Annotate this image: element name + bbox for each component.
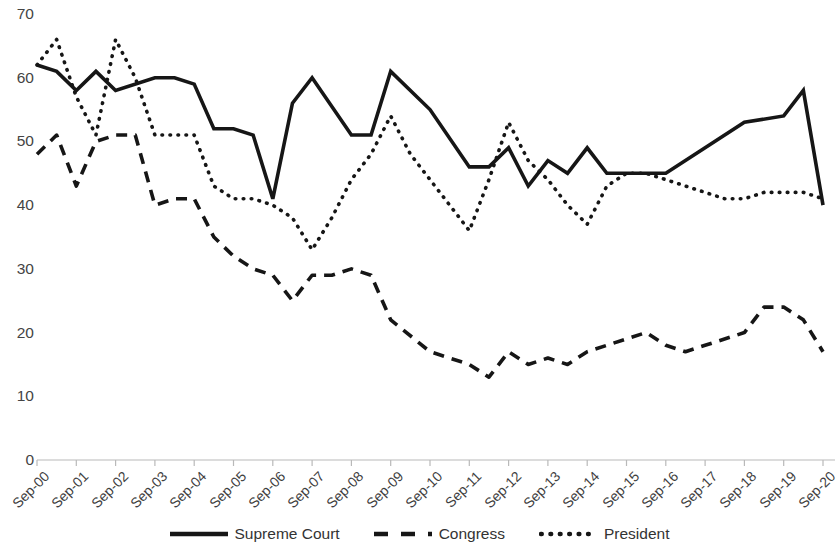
approval-ratings-line-chart: 010203040506070 Sep-00Sep-01Sep-02Sep-03… [0, 0, 839, 547]
series-line-congress [37, 135, 823, 377]
series-line-president [37, 39, 823, 249]
y-axis-tick-label: 70 [0, 6, 34, 22]
legend-swatch-solid-icon [170, 528, 228, 540]
legend-swatch-dotted-icon [539, 528, 597, 540]
y-axis-tick-label: 0 [0, 452, 34, 468]
x-axis-ticks [37, 460, 823, 466]
y-axis-tick-label: 60 [0, 70, 34, 86]
y-axis-tick-label: 20 [0, 325, 34, 341]
x-axis-line-group [37, 460, 835, 466]
legend-label-congress: Congress [439, 526, 505, 542]
legend-item-president: President [539, 526, 669, 542]
legend-item-congress: Congress [374, 526, 505, 542]
y-axis-tick-label: 10 [0, 388, 34, 404]
chart-legend: Supreme Court Congress President [0, 521, 839, 547]
y-axis-tick-label: 40 [0, 197, 34, 213]
legend-label-supreme-court: Supreme Court [235, 526, 340, 542]
legend-label-president: President [604, 526, 669, 542]
legend-swatch-dashed-icon [374, 528, 432, 540]
legend-item-supreme-court: Supreme Court [170, 526, 340, 542]
chart-plot-area [0, 0, 839, 547]
y-axis-tick-label: 30 [0, 261, 34, 277]
y-axis-tick-label: 50 [0, 133, 34, 149]
